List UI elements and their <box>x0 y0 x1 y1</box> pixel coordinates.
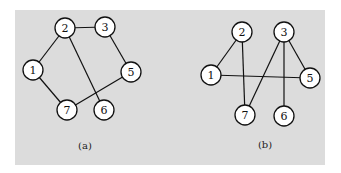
node-label: 7 <box>64 104 71 117</box>
node-label: 2 <box>62 22 69 35</box>
node-7: 7 <box>235 105 255 125</box>
node-label: 6 <box>101 104 108 117</box>
node-label: 5 <box>307 72 314 85</box>
node-label: 7 <box>242 109 249 122</box>
node-7: 7 <box>57 100 77 120</box>
node-3: 3 <box>95 17 115 37</box>
node-5: 5 <box>121 62 141 82</box>
node-3: 3 <box>274 22 294 42</box>
node-6: 6 <box>274 106 294 126</box>
node-2: 2 <box>232 22 252 42</box>
node-label: 2 <box>239 26 246 39</box>
node-5: 5 <box>300 68 320 88</box>
node-1: 1 <box>23 60 43 80</box>
graph-caption: (b) <box>258 139 272 150</box>
node-label: 3 <box>281 26 288 39</box>
node-label: 5 <box>128 66 135 79</box>
node-1: 1 <box>201 65 221 85</box>
graph-figure: 123567(a)123567(b) <box>0 0 341 173</box>
node-label: 1 <box>30 64 37 77</box>
node-label: 6 <box>281 110 288 123</box>
graph-caption: (a) <box>78 140 92 151</box>
node-label: 3 <box>102 21 109 34</box>
node-6: 6 <box>94 100 114 120</box>
node-label: 1 <box>208 69 215 82</box>
node-2: 2 <box>55 18 75 38</box>
